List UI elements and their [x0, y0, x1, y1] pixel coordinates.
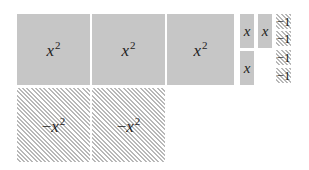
negative-x-squared-tile: −x2	[17, 88, 90, 162]
tile-label: x2	[46, 40, 60, 59]
x-squared-tile: x2	[17, 14, 90, 85]
tile-label: x2	[193, 40, 207, 59]
tile-label: −1	[277, 14, 291, 30]
tile-label: x	[244, 61, 251, 76]
tile-label: x	[262, 24, 269, 39]
x-tile: x	[258, 14, 272, 48]
x-squared-tile: x2	[92, 14, 165, 85]
tile-label: −1	[277, 68, 291, 84]
negative-one-tile: −1	[276, 14, 291, 29]
tile-label: −x2	[42, 116, 66, 135]
negative-one-tile: −1	[276, 50, 291, 65]
tile-label: −1	[277, 31, 291, 47]
tile-label: −x2	[117, 116, 141, 135]
tile-label: x2	[121, 40, 135, 59]
x-squared-tile: x2	[167, 14, 234, 85]
tile-label: x	[244, 24, 251, 39]
x-tile: x	[240, 14, 254, 48]
negative-one-tile: −1	[276, 68, 291, 83]
x-tile: x	[240, 51, 254, 85]
negative-x-squared-tile: −x2	[92, 88, 165, 162]
tile-label: −1	[277, 50, 291, 66]
negative-one-tile: −1	[276, 31, 291, 46]
